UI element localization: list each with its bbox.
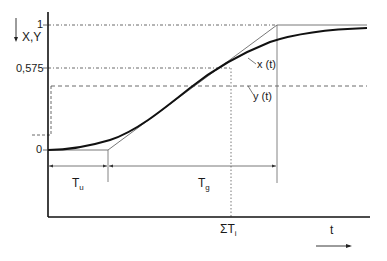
- level-1-label: 1: [37, 19, 43, 30]
- y-axis-label: X,Y: [22, 31, 41, 43]
- tu-arrowhead-left: [49, 165, 53, 168]
- tangent-line: [108, 25, 277, 150]
- tg-arrowhead-right: [272, 165, 276, 168]
- tg-label: Tg: [198, 177, 210, 192]
- down-arrow-head: [14, 37, 18, 42]
- sum-sub: i: [235, 229, 237, 238]
- tg-sub: g: [205, 183, 209, 192]
- x-curve-label: x (t): [257, 59, 276, 70]
- tg-arrowhead-left: [109, 165, 113, 168]
- y-curve-label: y (t): [253, 91, 272, 102]
- x-axis-label: t: [330, 224, 333, 236]
- tu-arrowhead-right: [103, 165, 107, 168]
- sum-main: ΣT: [220, 222, 235, 236]
- tu-sub: u: [79, 183, 83, 192]
- sum-ti-label: ΣTi: [220, 223, 237, 238]
- step-response-diagram: [0, 0, 387, 261]
- level-0-label: 0: [36, 144, 42, 155]
- x-label-leader: [248, 58, 256, 64]
- level-0575-label: 0,575: [16, 63, 44, 74]
- tu-label: Tu: [72, 177, 84, 192]
- response-curve-x: [48, 28, 367, 150]
- right-arrow-head: [346, 244, 352, 248]
